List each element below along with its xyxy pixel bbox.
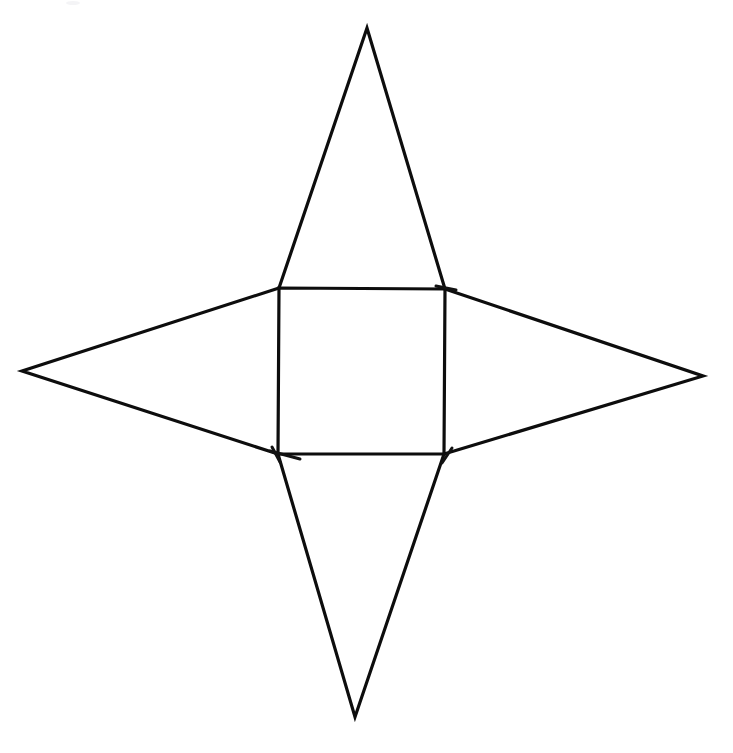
right-spike xyxy=(444,289,703,454)
four-pointed-star-figure xyxy=(0,0,733,753)
drawing-canvas xyxy=(0,0,733,753)
bottom-spike xyxy=(278,454,444,717)
scan-artifact-speck xyxy=(66,1,80,5)
left-spike xyxy=(22,288,279,454)
top-spike xyxy=(279,28,445,289)
central-square xyxy=(278,288,445,454)
